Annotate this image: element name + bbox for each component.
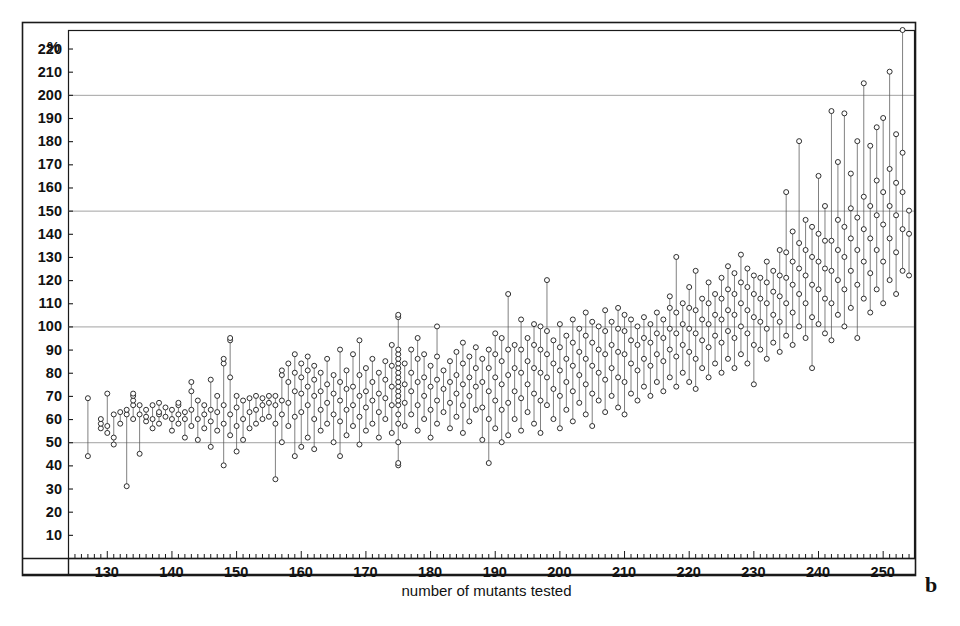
data-point [454, 373, 459, 378]
data-point [693, 268, 698, 273]
data-point [842, 111, 847, 116]
data-point [519, 347, 524, 352]
data-point [493, 375, 498, 380]
data-point [616, 349, 621, 354]
data-point [810, 224, 815, 229]
data-point [247, 426, 252, 431]
data-point [357, 442, 362, 447]
data-point [435, 377, 440, 382]
data-point [260, 417, 265, 422]
data-point [441, 386, 446, 391]
data-point [85, 396, 90, 401]
data-point [363, 389, 368, 394]
data-point [357, 414, 362, 419]
data-point [176, 400, 181, 405]
data-point [208, 444, 213, 449]
data-point [182, 417, 187, 422]
data-point [719, 370, 724, 375]
data-point [706, 345, 711, 350]
data-point [396, 421, 401, 426]
y-tick-label-90: 90 [46, 342, 62, 358]
data-point [357, 393, 362, 398]
data-point [764, 259, 769, 264]
data-point [603, 377, 608, 382]
data-point [603, 329, 608, 334]
data-point [111, 435, 116, 440]
data-point [480, 380, 485, 385]
data-point [648, 363, 653, 368]
data-point [590, 424, 595, 429]
data-point [467, 419, 472, 424]
data-point [855, 248, 860, 253]
data-point [415, 356, 420, 361]
data-point [305, 368, 310, 373]
data-point [415, 380, 420, 385]
data-point [667, 294, 672, 299]
data-point [98, 417, 103, 422]
data-series [85, 28, 911, 489]
data-point [124, 484, 129, 489]
data-point [111, 412, 116, 417]
data-point [654, 380, 659, 385]
data-point [422, 393, 427, 398]
data-point [299, 410, 304, 415]
data-point [745, 308, 750, 313]
data-point [764, 280, 769, 285]
data-point [771, 268, 776, 273]
data-point [137, 451, 142, 456]
data-point [266, 414, 271, 419]
data-point [447, 380, 452, 385]
data-point [499, 440, 504, 445]
data-point [622, 312, 627, 317]
data-point [887, 166, 892, 171]
data-point [687, 326, 692, 331]
y-tick-label-100: 100 [38, 318, 62, 334]
data-point [861, 81, 866, 86]
data-point [532, 342, 537, 347]
data-point [292, 352, 297, 357]
data-point [635, 398, 640, 403]
data-point [680, 342, 685, 347]
data-point [221, 403, 226, 408]
data-point [428, 363, 433, 368]
data-point [376, 410, 381, 415]
data-point [305, 403, 310, 408]
data-point [583, 310, 588, 315]
data-point [616, 405, 621, 410]
data-point [629, 317, 634, 322]
data-point [654, 352, 659, 357]
data-point [900, 28, 905, 33]
data-point [473, 345, 478, 350]
data-point [305, 435, 310, 440]
data-point [894, 180, 899, 185]
data-point [661, 336, 666, 341]
data-point [622, 380, 627, 385]
data-point [661, 317, 666, 322]
data-point [441, 410, 446, 415]
data-point [435, 354, 440, 359]
data-point [519, 370, 524, 375]
y-tick-label-190: 190 [38, 110, 62, 126]
data-point [629, 391, 634, 396]
data-point [900, 268, 905, 273]
data-point [816, 322, 821, 327]
data-point [409, 347, 414, 352]
data-point [803, 336, 808, 341]
data-point [409, 370, 414, 375]
data-point [835, 248, 840, 253]
data-point [706, 301, 711, 306]
data-point [292, 454, 297, 459]
data-point [338, 398, 343, 403]
data-point [790, 229, 795, 234]
data-point [389, 430, 394, 435]
data-point [538, 398, 543, 403]
data-point [629, 338, 634, 343]
data-point [725, 329, 730, 334]
data-point [758, 275, 763, 280]
data-point [674, 354, 679, 359]
y-axis-unit-label: % [47, 39, 60, 55]
data-point [725, 356, 730, 361]
data-point [157, 400, 162, 405]
data-point [325, 382, 330, 387]
data-point [564, 356, 569, 361]
